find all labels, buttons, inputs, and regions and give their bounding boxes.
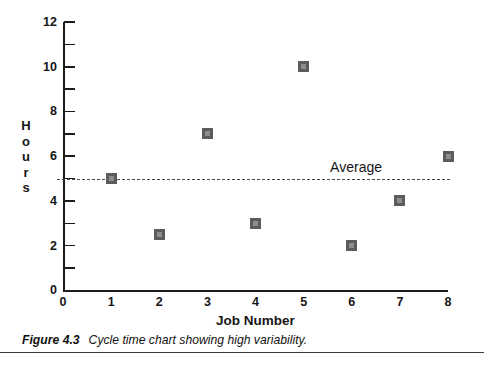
y-axis-tick	[64, 88, 75, 90]
y-axis-tick	[64, 245, 75, 247]
y-axis-tick-label: 8	[33, 105, 57, 118]
caption-figure-number: Figure 4.3	[22, 333, 80, 347]
x-axis-tick-label: 5	[292, 296, 316, 309]
y-axis-tick	[64, 200, 75, 202]
y-axis-title-letter: H	[18, 118, 34, 134]
x-axis-tick-label: 7	[388, 296, 412, 309]
y-axis-title-letter: s	[18, 180, 34, 196]
x-axis-tick-label: 3	[195, 296, 219, 309]
data-point	[443, 151, 454, 162]
y-axis-tick	[64, 21, 75, 23]
figure-caption: Figure 4.3Cycle time chart showing high …	[22, 333, 462, 347]
y-axis-tick	[64, 66, 75, 68]
y-axis-tick-label: 10	[33, 61, 57, 74]
y-axis-title-letter: o	[18, 134, 34, 150]
y-axis-tick	[64, 44, 75, 46]
data-point	[250, 218, 261, 229]
y-axis-tick	[64, 133, 75, 135]
x-axis-tick-label: 6	[340, 296, 364, 309]
y-axis-tick	[64, 223, 75, 225]
figure-container: Hours 024681012 012345678 Average Job Nu…	[0, 0, 484, 371]
average-label: Average	[330, 159, 382, 175]
y-axis-tick	[64, 111, 75, 113]
y-axis-tick-label: 2	[33, 240, 57, 253]
x-axis-line	[63, 290, 448, 292]
y-axis-title-letter: u	[18, 149, 34, 165]
y-axis-tick-label: 4	[33, 195, 57, 208]
x-axis-tick-label: 1	[99, 296, 123, 309]
data-point	[298, 61, 309, 72]
y-axis-tick	[64, 155, 75, 157]
y-axis-tick-label: 12	[33, 16, 57, 29]
y-axis-title: Hours	[18, 118, 34, 196]
caption-text: Cycle time chart showing high variabilit…	[89, 333, 308, 347]
data-point	[346, 240, 357, 251]
x-axis-title: Job Number	[63, 313, 448, 328]
x-axis-tick-label: 8	[436, 296, 460, 309]
caption-divider-rule	[0, 352, 484, 353]
y-axis-tick-label: 6	[33, 150, 57, 163]
data-point	[106, 173, 117, 184]
x-axis-tick-label: 2	[147, 296, 171, 309]
data-point	[202, 128, 213, 139]
data-point	[394, 195, 405, 206]
x-axis-tick-label: 0	[51, 296, 75, 309]
y-axis-tick	[64, 267, 75, 269]
data-point	[154, 229, 165, 240]
chart-plot-area: Hours 024681012 012345678 Average Job Nu…	[0, 0, 484, 330]
x-axis-tick-label: 4	[244, 296, 268, 309]
y-axis-title-letter: r	[18, 165, 34, 181]
